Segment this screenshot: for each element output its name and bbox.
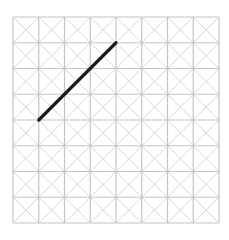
grid-diagram (0, 0, 229, 240)
